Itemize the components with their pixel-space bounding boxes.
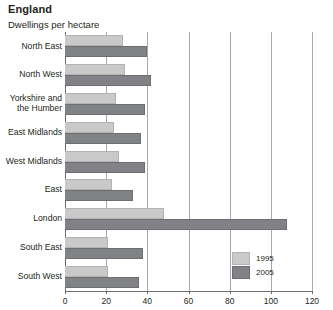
x-tick-0 <box>65 291 66 294</box>
category-label-west-midlands: West Midlands <box>4 157 62 167</box>
chart-subtitle: Dwellings per hectare <box>8 19 99 31</box>
legend-label-2005: 2005 <box>256 268 274 277</box>
gridline-120 <box>312 32 313 291</box>
category-label-line: North West <box>4 70 62 80</box>
category-label-line: London <box>4 214 62 224</box>
legend-item-2005: 2005 <box>232 266 292 279</box>
category-label-line: West Midlands <box>4 157 62 167</box>
bar-2005-south-east <box>65 248 143 259</box>
category-axis-labels: North EastNorth WestYorkshire andthe Hum… <box>0 32 62 291</box>
bar-1995-north-east <box>65 35 123 46</box>
bar-1995-south-west <box>65 266 108 277</box>
category-label-east: East <box>4 185 62 195</box>
chart-title: England <box>8 3 52 16</box>
legend-item-1995: 1995 <box>232 252 292 265</box>
x-tick-label-0: 0 <box>50 296 80 306</box>
category-label-london: London <box>4 214 62 224</box>
bar-2005-east-midlands <box>65 133 141 144</box>
gridline-60 <box>189 32 190 291</box>
x-tick-60 <box>189 291 190 294</box>
bar-2005-west-midlands <box>65 162 145 173</box>
x-tick-label-40: 40 <box>132 296 162 306</box>
category-label-line: South West <box>4 272 62 282</box>
bar-1995-west-midlands <box>65 151 119 162</box>
bar-1995-south-east <box>65 237 108 248</box>
legend-label-1995: 1995 <box>256 254 274 263</box>
category-label-line: South East <box>4 243 62 253</box>
category-label-south-west: South West <box>4 272 62 282</box>
gridline-40 <box>147 32 148 291</box>
x-tick-100 <box>271 291 272 294</box>
bar-2005-north-east <box>65 46 147 57</box>
category-label-line: East <box>4 185 62 195</box>
category-label-north-west: North West <box>4 70 62 80</box>
dwellings-per-hectare-chart: England Dwellings per hectare North East… <box>0 0 333 310</box>
legend-swatch-2005 <box>232 266 250 279</box>
bar-1995-east <box>65 179 112 190</box>
category-label-south-east: South East <box>4 243 62 253</box>
chart-legend: 19952005 <box>232 252 292 284</box>
gridline-80 <box>230 32 231 291</box>
x-tick-120 <box>312 291 313 294</box>
category-label-line: North East <box>4 42 62 52</box>
x-tick-label-100: 100 <box>256 296 286 306</box>
bar-2005-south-west <box>65 277 139 288</box>
bar-1995-yorkshire-and-the-humber <box>65 93 116 104</box>
category-label-line: East Midlands <box>4 128 62 138</box>
category-label-east-midlands: East Midlands <box>4 128 62 138</box>
bar-2005-london <box>65 219 287 230</box>
bar-2005-east <box>65 190 133 201</box>
x-tick-label-60: 60 <box>174 296 204 306</box>
category-label-yorkshire-and-the-humber: Yorkshire andthe Humber <box>4 94 62 113</box>
x-tick-label-20: 20 <box>91 296 121 306</box>
bar-2005-north-west <box>65 75 151 86</box>
x-tick-20 <box>106 291 107 294</box>
x-tick-label-80: 80 <box>215 296 245 306</box>
bar-2005-yorkshire-and-the-humber <box>65 104 145 115</box>
x-tick-40 <box>147 291 148 294</box>
bar-1995-london <box>65 208 164 219</box>
x-tick-80 <box>230 291 231 294</box>
bar-1995-east-midlands <box>65 122 114 133</box>
bar-1995-north-west <box>65 64 125 75</box>
category-label-line: the Humber <box>4 104 62 114</box>
x-tick-label-120: 120 <box>297 296 327 306</box>
category-label-north-east: North East <box>4 42 62 52</box>
legend-swatch-1995 <box>232 252 250 265</box>
